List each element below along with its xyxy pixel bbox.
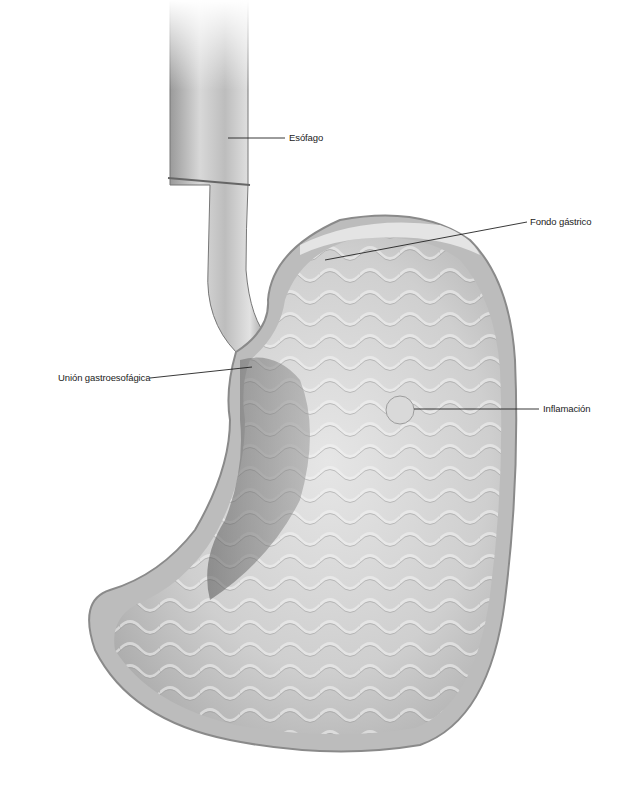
label-union-gastroesofagica: Unión gastroesofágica: [58, 372, 150, 383]
label-inflamacion: Inflamación: [543, 403, 590, 414]
label-fondo-gastrico: Fondo gástrico: [530, 216, 591, 227]
label-esofago: Esófago: [289, 132, 323, 143]
stomach-diagram: Esófago Fondo gástrico Unión gastroesofá…: [0, 0, 625, 799]
stomach-illustration: [0, 0, 625, 799]
